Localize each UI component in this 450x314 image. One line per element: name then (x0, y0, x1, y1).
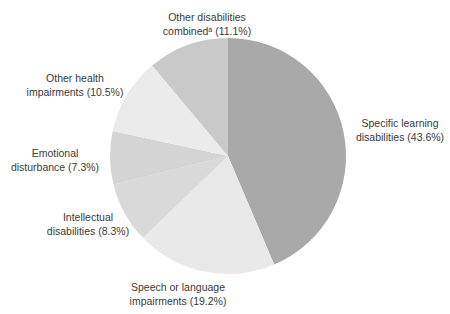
label-line: impairments (19.2%) (128, 294, 228, 308)
label-specific-learning-disabilities: Specific learning disabilities (43.6%) (350, 116, 450, 144)
label-line: disturbance (7.3%) (10, 160, 100, 174)
label-line: Emotional (10, 146, 100, 160)
label-other-health-impairments: Other health impairments (10.5%) (20, 71, 130, 99)
label-speech-language-impairments: Speech or language impairments (19.2%) (128, 280, 228, 308)
label-line: Other health (20, 71, 130, 85)
label-other-disabilities-combined: Other disabilities combinedᵃ (11.1%) (142, 10, 272, 38)
label-line: Speech or language (128, 280, 228, 294)
label-line: Other disabilities (142, 10, 272, 24)
label-intellectual-disabilities: Intellectual disabilities (8.3%) (38, 210, 138, 238)
label-line: Intellectual (38, 210, 138, 224)
label-line: combinedᵃ (11.1%) (142, 24, 272, 38)
label-line: disabilities (43.6%) (350, 130, 450, 144)
label-line: impairments (10.5%) (20, 85, 130, 99)
label-emotional-disturbance: Emotional disturbance (7.3%) (10, 146, 100, 174)
label-line: Specific learning (350, 116, 450, 130)
label-line: disabilities (8.3%) (38, 224, 138, 238)
